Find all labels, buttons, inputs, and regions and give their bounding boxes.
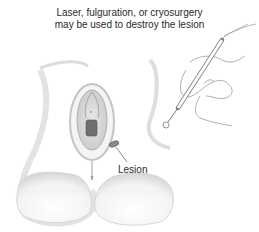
anatomical-illustration <box>0 0 259 232</box>
vulva-region <box>70 84 114 180</box>
probe-pen-icon <box>163 24 256 128</box>
lesion-marker <box>108 140 127 162</box>
lesion-label: Lesion <box>118 164 147 175</box>
